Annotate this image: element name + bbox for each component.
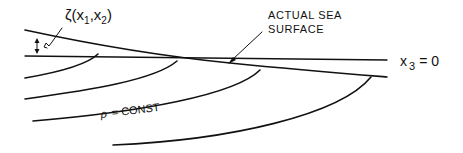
reference-plane-line [25,56,387,60]
density-curve-1 [25,54,98,78]
actual-sea-label-line2: SURFACE [268,23,324,35]
actual-sea-label-line1: ACTUAL SEA [268,9,342,21]
sea-surface-diagram: ζ(x1,x2) ACTUAL SEA SURFACE x3= 0 ρ= CON… [0,0,463,153]
x3-label: x3= 0 [400,53,439,72]
elevation-arrow-icon [35,38,40,54]
zeta-label: ζ(x1,x2) [65,6,112,26]
density-const-label: ρ= CONST [99,101,161,120]
actual-sea-surface-curve [25,30,387,77]
zeta-leader-squiggle [44,28,62,48]
density-curve-2 [25,61,177,99]
